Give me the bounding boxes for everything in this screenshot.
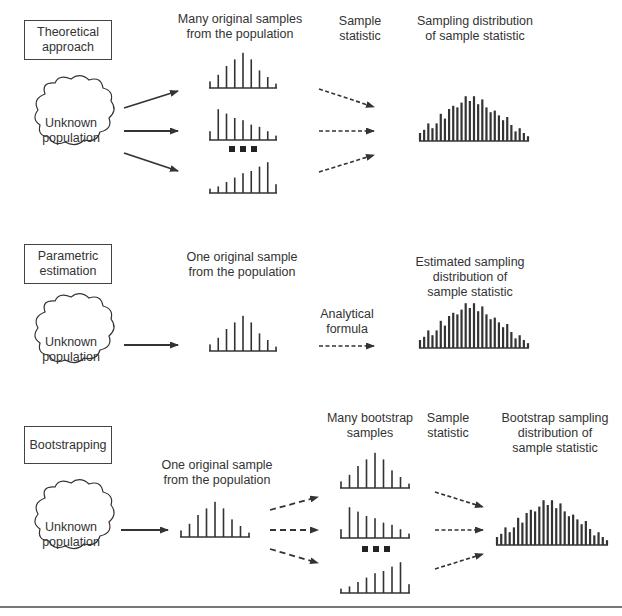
histogram-bar [250,171,252,193]
histogram-bar [209,131,211,140]
histogram-bar [530,510,532,545]
histogram-bar [581,524,583,545]
histogram-bar [400,562,402,593]
histogram-bar [519,335,521,348]
column-header-distribution-bootstrapping: Bootstrap sampling distribution of sampl… [490,411,620,456]
arrow-icon [124,91,178,108]
histogram-bar [226,66,228,88]
bottom-divider [0,606,622,608]
histogram-sample-bootstrapping [180,502,250,537]
dashed-arrows-theoretical [319,89,374,172]
histogram-bar [374,573,376,593]
histogram-bar [209,81,211,88]
histogram-bar [349,475,351,488]
histogram-bar [448,109,450,141]
ellipsis-icon-bootstrapping [362,546,390,552]
histogram-bar [357,582,359,593]
histogram-bar [419,340,421,348]
histogram-bar [538,507,540,545]
histogram-bar [275,347,277,351]
dashed-arrow-icon [435,492,483,507]
histogram-bar [189,524,191,537]
column-header-distribution-theoretical: Sampling distribution of sample statisti… [410,14,540,44]
histogram-bar [383,571,385,593]
histogram-bar [427,330,429,348]
histogram-sample-theoretical-1 [209,53,277,88]
histogram-bar [250,322,252,351]
section-title-theoretical: Theoretical approach [24,20,112,60]
column-header-samples-theoretical: Many original samples from the populatio… [170,12,310,42]
histogram-bar [234,322,236,351]
histogram-bar [340,529,342,538]
histogram-bar [481,99,483,141]
arrows-bootstrapping [121,492,483,569]
histogram-sampling-distribution-theoretical [419,96,529,141]
histogram-bar [521,523,523,545]
histogram-bar [568,516,570,545]
histogram-bar [267,77,269,88]
histogram-bar [408,484,410,488]
histogram-bar [217,75,219,88]
histogram-bar [250,59,252,88]
histogram-bar [506,324,508,348]
histogram-bar [197,515,199,537]
histogram-bar [366,516,368,538]
histogram-bar [366,459,368,488]
histogram-bar [275,136,277,140]
histogram-bar [383,523,385,538]
arrow-icon [124,153,178,171]
histogram-bar [431,128,433,141]
arrows-parametric [124,345,374,346]
histogram-bar [498,322,500,348]
histogram-bar [547,505,549,545]
histogram-bar [231,519,233,537]
histogram-bar [400,529,402,538]
histogram-sample-theoretical-3 [209,162,277,193]
histogram-bar [366,578,368,593]
column-header-statistic-theoretical: Sample statistic [325,14,395,44]
histogram-bar [542,500,544,545]
histogram-bootstrap-sample-3 [340,562,410,593]
histogram-estimated-distribution-parametric [419,303,529,348]
histogram-bar [408,534,410,538]
histogram-bar [180,530,182,537]
histogram-bar [427,123,429,141]
histogram-bar [242,53,244,88]
histogram-bar [523,133,525,141]
histogram-bar [250,125,252,140]
histogram-bootstrap-sample-1 [340,453,410,488]
histogram-bar [514,338,516,348]
histogram-bar [374,518,376,538]
histogram-bar [509,532,511,545]
histogram-bar [209,189,211,193]
histogram-bar [259,70,261,88]
histogram-bar [490,319,492,348]
histogram-bar [551,500,553,545]
histogram-bar [436,330,438,348]
histogram-bar [456,314,458,348]
histogram-bar [234,178,236,193]
column-header-sample-parametric: One original sample from the population [177,250,307,280]
histogram-bar [259,333,261,351]
histogram-bar [217,109,219,140]
histogram-bar [267,162,269,193]
histogram-bar [500,534,502,545]
histogram-bar [465,303,467,348]
histogram-bar [452,106,454,141]
dashed-arrow-icon [435,554,483,569]
histogram-bar [340,589,342,593]
histogram-bar [514,131,516,141]
column-header-sample-bootstrapping: One original sample from the population [152,458,282,488]
histogram-sample-parametric [209,316,277,351]
histogram-bar [357,466,359,488]
histogram-bar [349,507,351,538]
ellipsis-icon-theoretical [229,146,257,152]
histogram-bar [431,335,433,348]
solid-arrows-theoretical [124,91,178,171]
histogram-bar [267,131,269,140]
column-header-bootstrap-samples: Many bootstrap samples [315,411,425,441]
dashed-arrow-icon [270,549,318,563]
column-header-distribution-parametric: Estimated sampling distribution of sampl… [405,255,535,300]
histogram-bar [502,327,504,348]
histogram-bar [223,508,225,537]
